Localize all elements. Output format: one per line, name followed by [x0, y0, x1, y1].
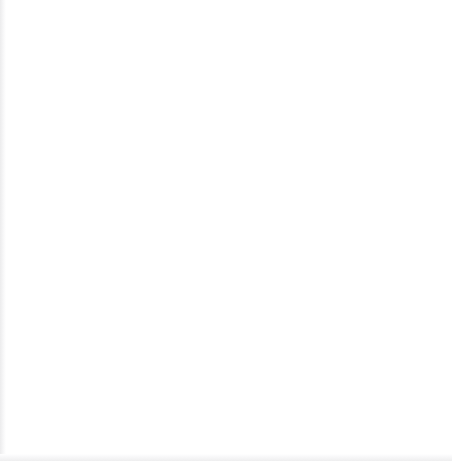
diagram-svg — [0, 0, 452, 461]
diagram-canvas — [0, 0, 452, 461]
slide-edge-bottom — [0, 454, 452, 461]
